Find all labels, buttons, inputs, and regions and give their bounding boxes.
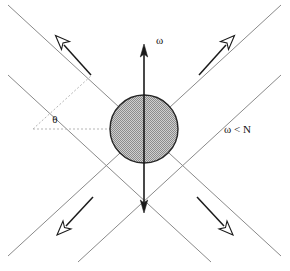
theta-angle-label: θ — [52, 113, 57, 125]
frequency-condition-label: ω < N — [224, 123, 251, 135]
omega-axis-label: ω — [156, 34, 163, 46]
wave-cone-diagram: ω θ ω < N — [0, 0, 290, 271]
figure-canvas: ω θ ω < N — [0, 0, 290, 271]
